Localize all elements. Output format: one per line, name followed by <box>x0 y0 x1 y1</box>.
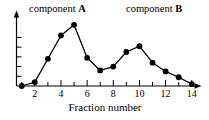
x-axis-tick-label: 10 <box>134 88 144 99</box>
data-point <box>150 60 156 66</box>
annotation-component-a-prefix: component <box>29 3 78 14</box>
elution-profile-chart: 2468101214 Fraction number <box>0 0 209 120</box>
data-point <box>45 56 51 62</box>
annotation-component-b: component B <box>126 4 182 15</box>
x-axis-title: Fraction number <box>68 101 141 113</box>
annotation-component-b-prefix: component <box>126 3 175 14</box>
x-axis-tick-label: 14 <box>187 88 197 99</box>
data-point <box>137 43 143 49</box>
data-point <box>97 68 103 74</box>
annotation-component-a-letter: A <box>78 3 86 14</box>
x-axis-tick-label: 6 <box>85 88 90 99</box>
data-point <box>110 64 116 70</box>
x-axis-tick-label: 8 <box>111 88 116 99</box>
y-axis <box>14 11 22 87</box>
chart-figure: 2468101214 Fraction number component A c… <box>0 0 209 120</box>
data-point <box>176 74 182 80</box>
data-point <box>71 22 77 28</box>
y-axis-ticks <box>17 37 22 76</box>
data-point <box>84 55 90 61</box>
x-axis-tick-label: 2 <box>32 88 37 99</box>
x-axis-tick-labels: 2468101214 <box>32 88 196 99</box>
data-point <box>19 83 25 89</box>
data-series-line <box>22 25 192 86</box>
data-point <box>32 79 38 85</box>
annotation-component-a: component A <box>29 4 86 15</box>
data-point <box>163 69 169 75</box>
x-axis-tick-label: 12 <box>161 88 171 99</box>
data-point <box>58 33 64 39</box>
data-point <box>189 81 195 87</box>
annotation-component-b-letter: B <box>175 3 182 14</box>
data-point <box>123 49 129 55</box>
y-axis-arrowhead <box>14 11 20 18</box>
data-series-markers <box>19 22 195 89</box>
x-axis-tick-label: 4 <box>58 88 63 99</box>
x-axis-ticks <box>22 80 192 86</box>
x-axis: 2468101214 <box>17 80 202 99</box>
